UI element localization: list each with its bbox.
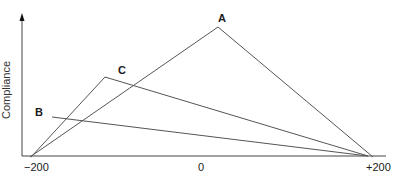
x-tick-zero: 0 (198, 162, 204, 173)
x-tick-plus-200: +200 (366, 162, 391, 173)
y-axis-label: Compliance (0, 61, 12, 119)
compliance-diagram (0, 0, 396, 182)
curve-b (52, 117, 368, 156)
y-axis-arrow-icon (20, 13, 25, 21)
curve-label-a: A (218, 13, 226, 24)
curve-label-b: B (35, 107, 43, 118)
x-tick-minus-200: −200 (24, 162, 49, 173)
curve-c (31, 77, 368, 157)
curve-a (30, 27, 373, 157)
curve-label-c: C (118, 65, 126, 76)
